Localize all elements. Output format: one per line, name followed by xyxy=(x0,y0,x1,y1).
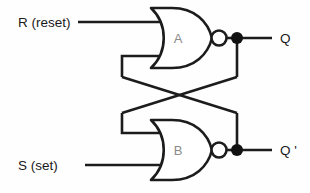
input-label-set: S (set) xyxy=(18,158,58,173)
gate-a-label: A xyxy=(174,31,183,46)
circuit-canvas: A B R (reset) S (set) Q Q ' xyxy=(0,0,310,193)
junction-dot-qnot xyxy=(231,144,243,156)
gate-b-label: B xyxy=(174,143,183,158)
junction-dot-q xyxy=(231,32,243,44)
output-label-q-not: Q ' xyxy=(280,143,297,158)
gate-b-inversion-bubble xyxy=(212,143,227,158)
gate-a-inversion-bubble xyxy=(212,31,227,46)
output-label-q: Q xyxy=(280,31,291,46)
logic-circuit-diagram: A B R (reset) S (set) Q Q ' xyxy=(0,0,310,193)
input-label-reset: R (reset) xyxy=(18,15,71,30)
